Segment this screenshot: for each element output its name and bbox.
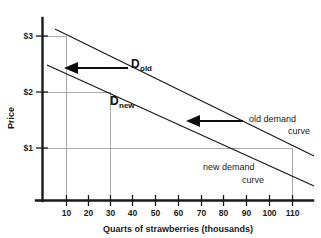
new-demand-tag-base: D (110, 94, 119, 108)
x-axis-title: Quarts of strawberries (thousands) (103, 224, 253, 234)
y-axis-title: Price (6, 107, 16, 129)
x-tick-label-20: 20 (84, 208, 94, 218)
old-demand-curve-tag: D old (131, 57, 152, 73)
new-demand-label-line2: curve (242, 175, 264, 185)
old-demand-tag-base: D (131, 57, 140, 71)
arrow-head-lower (186, 115, 200, 127)
old-demand-label-line2: curve (288, 126, 310, 136)
x-tick-label-80: 80 (219, 208, 229, 218)
new-demand-curve-tag: D new (110, 94, 135, 110)
old-demand-tag-subscript: old (140, 64, 152, 73)
y-tick-label-2: $2 (24, 87, 34, 97)
new-demand-curve-label: new demand curve (203, 162, 264, 185)
x-tick-label-40: 40 (128, 208, 138, 218)
y-tick-label-3: $3 (24, 31, 34, 41)
x-tick-label-10: 10 (62, 208, 72, 218)
x-tick-label-110: 110 (286, 208, 300, 218)
new-demand-label-line1: new demand (203, 162, 255, 172)
x-tick-label-30: 30 (106, 208, 116, 218)
x-tick-label-50: 50 (151, 208, 161, 218)
y-tick-label-1: $1 (24, 143, 34, 153)
curve-group (47, 29, 314, 186)
new-demand-tag-subscript: new (119, 101, 135, 110)
x-tick-label-60: 60 (174, 208, 184, 218)
chart-container: $3 $2 $1 10 20 30 40 50 60 70 80 90 100 … (0, 0, 321, 238)
shift-arrow-upper (64, 62, 128, 74)
new-demand-curve-line (47, 65, 314, 186)
old-demand-label-line1: old demand (249, 114, 296, 124)
demand-shift-chart: $3 $2 $1 10 20 30 40 50 60 70 80 90 100 … (0, 0, 321, 238)
x-tick-label-70: 70 (197, 208, 207, 218)
x-tick-label-90: 90 (242, 208, 252, 218)
x-tick-label-100: 100 (262, 208, 276, 218)
old-demand-curve-label: old demand curve (249, 114, 310, 136)
